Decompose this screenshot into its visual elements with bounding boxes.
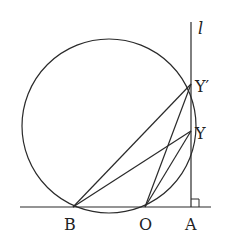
label-Yprime: Y′ [194,77,210,96]
label-Y: Y [194,124,206,143]
right-angle-mark [191,199,199,207]
segment-B-Y [73,131,191,207]
segment-B-Yprime [73,84,191,207]
label-A: A [184,215,197,234]
label-O: O [139,215,152,234]
circle [22,39,196,213]
label-line-l: l [198,19,203,38]
geometry-diagram: l Y′ Y B O A [0,0,228,246]
segment-O-Yprime [145,84,191,207]
label-B: B [64,215,76,234]
